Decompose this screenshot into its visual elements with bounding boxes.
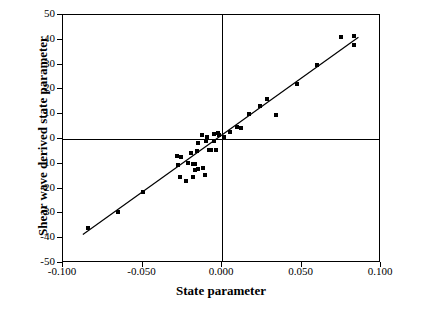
y-axis-tick-label: -40 [25, 231, 55, 242]
x-axis-tick-mark [62, 262, 63, 267]
data-point [191, 175, 195, 179]
data-point [258, 104, 262, 108]
data-point [141, 190, 145, 194]
x-axis-label: State parameter [62, 283, 380, 299]
y-axis-tick-label: 20 [25, 82, 55, 93]
data-point [200, 133, 204, 137]
x-axis-tick-label: -0.050 [112, 266, 172, 277]
y-axis-tick-label: -20 [25, 182, 55, 193]
x-axis-tick-mark [380, 262, 381, 267]
data-point [315, 63, 319, 67]
data-point [222, 135, 226, 139]
data-point [201, 166, 205, 170]
data-point [189, 151, 193, 155]
x-axis-tick-label: 0.100 [350, 266, 410, 277]
data-point [195, 149, 199, 153]
data-point [193, 162, 197, 166]
x-axis-tick-label: 0.050 [271, 266, 331, 277]
data-point [212, 139, 216, 143]
data-point [247, 112, 251, 116]
data-point [352, 43, 356, 47]
y-axis-tick-label: 40 [25, 33, 55, 44]
x-axis-tick-label: -0.100 [32, 266, 92, 277]
y-axis-tick-label: 10 [25, 107, 55, 118]
data-point [184, 179, 188, 183]
data-point [209, 148, 213, 152]
data-point [239, 126, 243, 130]
data-point [196, 141, 200, 145]
data-point [179, 155, 183, 159]
data-point [86, 226, 90, 230]
y-axis-tick-label: 30 [25, 58, 55, 69]
data-point [205, 135, 209, 139]
data-point [352, 34, 356, 38]
data-point [217, 133, 221, 137]
scatter-chart: Shear wave derived state parameter State… [0, 0, 441, 312]
data-point [116, 210, 120, 214]
data-point [204, 139, 208, 143]
x-axis-tick-mark [142, 262, 143, 267]
data-point [214, 148, 218, 152]
x-axis-tick-mark [221, 262, 222, 267]
y-axis-tick-label: -10 [25, 157, 55, 168]
data-point [178, 175, 182, 179]
y-axis-tick-label: 0 [25, 132, 55, 143]
data-point [176, 163, 180, 167]
data-point [265, 97, 269, 101]
plot-area [62, 14, 380, 262]
data-point [196, 167, 200, 171]
y-axis-tick-label: -30 [25, 206, 55, 217]
data-point [228, 130, 232, 134]
y-axis-tick-label: 50 [25, 8, 55, 19]
x-axis-tick-mark [301, 262, 302, 267]
data-point [274, 113, 278, 117]
data-point [339, 35, 343, 39]
x-axis-tick-label: 0.000 [191, 266, 251, 277]
data-point [295, 82, 299, 86]
data-point [203, 173, 207, 177]
